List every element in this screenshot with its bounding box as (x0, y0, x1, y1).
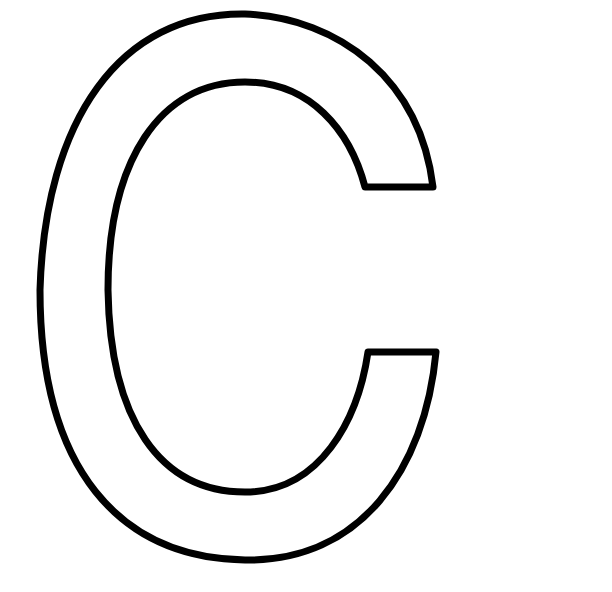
letter-c-outline-icon (0, 0, 612, 592)
letter-canvas: C (0, 0, 612, 592)
